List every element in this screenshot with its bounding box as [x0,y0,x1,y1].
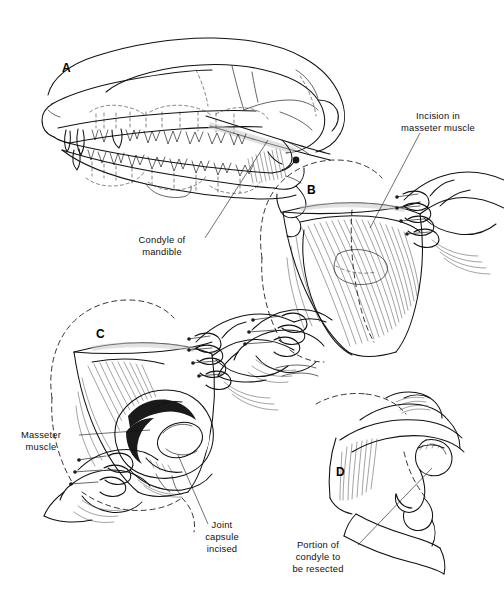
label-joint-capsule-line-2: capsule [205,531,239,542]
panel-letter-c: C [96,327,105,341]
condylectomy-illustration: A [0,0,504,610]
label-masseter-muscle-line-2: muscle [26,441,57,452]
label-incision-line-1: Incision in [416,110,460,121]
label-joint-capsule-line-1: Joint [212,519,233,530]
label-condyle-of-mandible-line-1: Condyle of [139,234,186,245]
label-portion-line-3: be resected [292,563,343,574]
label-condyle-of-mandible-line-2: mandible [142,246,182,257]
label-masseter-muscle-line-1: Masseter [21,429,61,440]
figure-canvas: A [0,0,504,610]
label-portion-line-1: Portion of [297,539,339,550]
background [0,0,504,610]
panel-letter-a: A [62,61,71,75]
panel-letter-d: D [336,465,345,479]
label-portion-line-2: condyle to [296,551,341,562]
label-incision-line-2: masseter muscle [401,122,475,133]
panel-letter-b: B [307,183,316,197]
label-joint-capsule-line-3: incised [207,543,238,554]
